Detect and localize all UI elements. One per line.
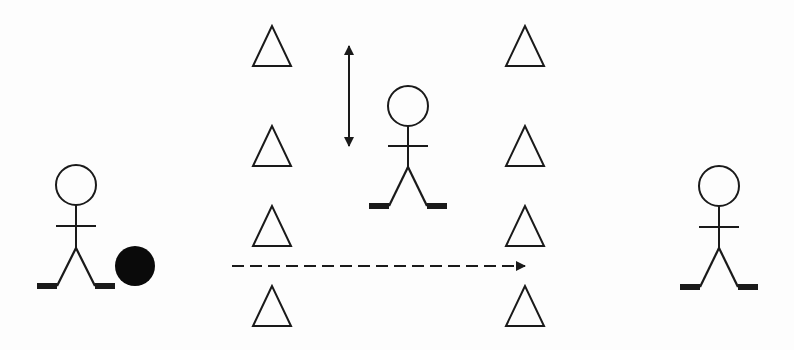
cone-icon [253,206,291,246]
cone-icon [253,286,291,326]
player-left-foot [680,284,700,290]
cone-icon [253,126,291,166]
player-head-icon [699,166,739,206]
player-right-leg [76,248,95,286]
player-right-leg [408,167,427,206]
player-right [680,166,758,290]
cone-icon [506,286,544,326]
player-left-foot [37,283,57,289]
cone-icon [506,26,544,66]
cone-icon [253,26,291,66]
drill-diagram [0,0,794,350]
player-left-leg [700,248,719,287]
player-left [37,165,115,289]
player-right-foot [738,284,758,290]
cone-icon [506,206,544,246]
cones [253,26,544,326]
ball-icon [115,246,155,286]
arrows [232,46,525,266]
player-right-leg [719,248,738,287]
player-head-icon [56,165,96,205]
player-right-foot [95,283,115,289]
player-left-foot [369,203,389,209]
ball-layer [115,246,155,286]
player-left-leg [57,248,76,286]
player-head-icon [388,86,428,126]
diagram-canvas [0,0,794,350]
player-middle [369,86,447,209]
player-left-leg [389,167,408,206]
cone-icon [506,126,544,166]
player-right-foot [427,203,447,209]
